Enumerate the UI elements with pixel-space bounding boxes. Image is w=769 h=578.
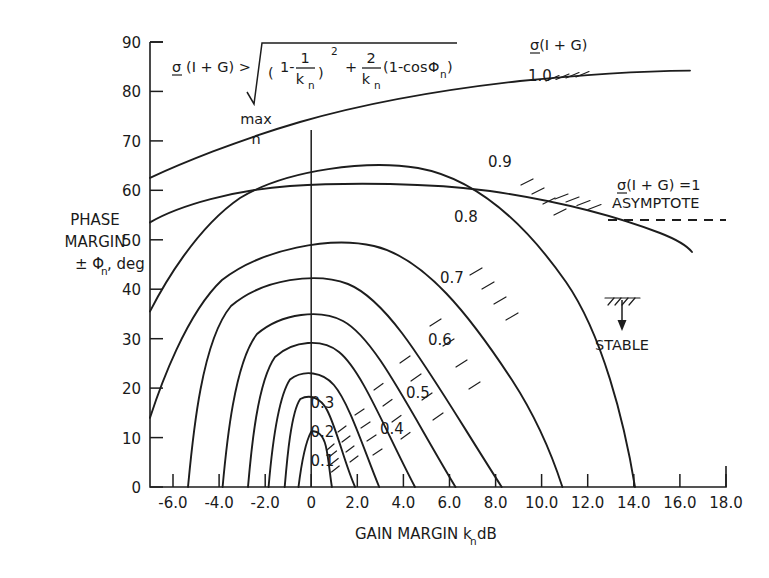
y-tick-label: 70 (122, 133, 141, 151)
curve-1.0 (150, 71, 690, 178)
formula-close-paren: ) (318, 65, 324, 81)
curve-label-0.8: 0.8 (454, 208, 478, 226)
contour-curves (150, 71, 692, 487)
x-tick-label: -4.0 (204, 494, 233, 512)
curve-label-0.2: 0.2 (311, 423, 335, 441)
formula-open-paren: ( (268, 65, 274, 81)
stable-arrow-head (618, 320, 627, 331)
curve-label-1.0: 1.0 (528, 67, 552, 85)
curve-0.9 (150, 184, 692, 252)
formula-frac1-den-sub: n (308, 79, 315, 91)
formula-frac1-denominator: k (296, 71, 305, 87)
y-tick-label: 20 (122, 380, 141, 398)
stability-hatch-marks (327, 72, 601, 473)
y-axis-ticks (150, 42, 163, 487)
x-axis-tick-labels: -6.0 -4.0 -2.0 0 2.0 4.0 6.0 8.0 10.0 12… (158, 494, 742, 512)
formula-phi: Φ (428, 59, 439, 75)
y-tick-label: 30 (122, 331, 141, 349)
formula-tail-close: ) (447, 59, 453, 75)
formula-frac2-denominator: k (362, 71, 371, 87)
formula-max-label: max (240, 111, 272, 127)
x-tick-label: 2.0 (345, 494, 369, 512)
y-axis-title-line1: PHASE (70, 211, 120, 229)
x-tick-label: -2.0 (251, 494, 280, 512)
formula-phi-sub: n (440, 68, 447, 80)
curve-label-0.7: 0.7 (440, 269, 464, 287)
formula-one-minus: 1- (280, 59, 294, 75)
y-tick-label: 10 (122, 430, 141, 448)
formula-exponent: 2 (331, 45, 338, 57)
x-tick-label: 8.0 (484, 494, 508, 512)
y-tick-label: 40 (122, 281, 141, 299)
curve-0.8 (150, 165, 635, 487)
y-tick-label: 80 (122, 83, 141, 101)
x-tick-label: -6.0 (158, 494, 187, 512)
y-axis-title-line3: ± Φ (75, 255, 104, 273)
formula-frac2-den-sub: n (374, 79, 381, 91)
curve-0.7 (150, 243, 562, 487)
x-tick-label: 10.0 (525, 494, 558, 512)
asymptote-label: ASYMPTOTE (612, 195, 700, 211)
formula-frac2-numerator: 2 (366, 50, 375, 66)
formula-sigma: σ (172, 59, 181, 75)
x-tick-label: 6.0 (438, 494, 462, 512)
x-axis-title-tail: dB (477, 525, 497, 543)
curve-label-0.1: 0.1 (311, 452, 335, 470)
asymptote-annotation: σ(I + G) =1 ASYMPTOTE (608, 177, 726, 220)
curve-label-0.3: 0.3 (311, 394, 335, 412)
y-tick-label: 90 (122, 34, 141, 52)
formula-tail: (1-cos (383, 59, 428, 75)
formula-frac1-numerator: 1 (300, 50, 309, 66)
x-tick-label: 16.0 (663, 494, 696, 512)
stable-label: STABLE (595, 337, 649, 353)
x-tick-label: 0 (306, 494, 316, 512)
asymptote-equation: σ(I + G) =1 (617, 177, 700, 193)
y-axis-title-tail: , deg (107, 255, 145, 273)
x-tick-label: 4.0 (391, 494, 415, 512)
curve-family-label: σ(I + G) (530, 37, 587, 53)
curve-value-labels: 0.1 0.2 0.3 0.4 0.5 0.6 0.7 0.8 0.9 1.0 (311, 67, 552, 470)
formula-max-sub: n (251, 131, 260, 147)
x-axis-title-sub: n (470, 535, 477, 547)
x-tick-label: 18.0 (709, 494, 742, 512)
formula-plus: + (345, 59, 357, 75)
curve-label-0.4: 0.4 (380, 420, 404, 438)
curve-label-0.9: 0.9 (488, 153, 512, 171)
formula-lhs: (I + G) > (186, 59, 251, 75)
x-axis-title: GAIN MARGIN k n dB (355, 525, 497, 547)
curve-0.6 (188, 278, 502, 487)
x-tick-label: 14.0 (617, 494, 650, 512)
inequality-formula: σ (I + G) > ( 1- 1 k n ) 2 + 2 k n (1-co… (172, 43, 457, 147)
x-axis-title-main: GAIN MARGIN k (355, 525, 472, 543)
stable-annotation: STABLE (595, 298, 649, 353)
plot-frame (150, 42, 726, 487)
y-tick-label: 0 (131, 479, 141, 497)
curve-label-0.6: 0.6 (428, 331, 452, 349)
y-axis-title-line2: MARGIN (65, 233, 126, 251)
x-tick-label: 12.0 (571, 494, 604, 512)
stability-chart-svg: 0 10 20 30 40 50 60 70 80 90 (0, 0, 769, 578)
chart-root: 0 10 20 30 40 50 60 70 80 90 (0, 0, 769, 578)
curve-family-label-text: σ(I + G) (530, 37, 587, 53)
curve-label-0.5: 0.5 (406, 384, 430, 402)
y-tick-label: 60 (122, 182, 141, 200)
